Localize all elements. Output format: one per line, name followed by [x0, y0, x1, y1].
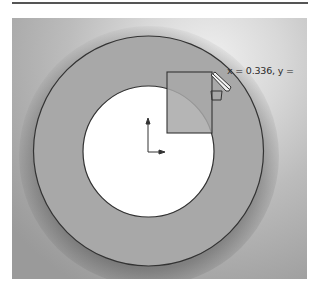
sketch-viewport[interactable]: x = 0.336, y =	[12, 18, 307, 279]
top-divider	[12, 2, 308, 4]
rectangle-cursor-icon	[167, 72, 212, 133]
cursor-coordinate-readout: x = 0.336, y =	[227, 65, 294, 76]
sketch-canvas[interactable]	[12, 18, 307, 279]
